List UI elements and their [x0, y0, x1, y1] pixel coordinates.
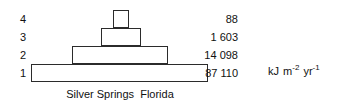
- pyramid-bar-level-3: [101, 28, 141, 46]
- units-area-exponent: -2: [292, 63, 299, 72]
- value-label-level-4: 88: [226, 14, 238, 25]
- units-time: yr-1: [303, 65, 319, 77]
- pyramid-bar-level-4: [113, 10, 129, 28]
- units-area: m-2: [283, 65, 299, 77]
- level-label-1: 1: [12, 68, 26, 79]
- level-label-4: 4: [12, 14, 26, 25]
- pyramid-bar-level-1: [31, 64, 208, 82]
- value-label-level-2: 14 098: [204, 50, 238, 61]
- units-label: kJ m-2 yr-1: [268, 66, 321, 77]
- units-energy: kJ: [268, 65, 279, 77]
- pyramid-bar-level-2: [72, 46, 168, 64]
- energy-pyramid-figure: 4 3 2 1 88 1 603 14 098 87 110 kJ m-2 yr…: [0, 0, 342, 105]
- level-label-3: 3: [12, 32, 26, 43]
- units-time-exponent: -1: [313, 63, 320, 72]
- units-area-base: m: [283, 65, 292, 77]
- value-label-level-1: 87 110: [205, 68, 238, 79]
- figure-caption: Silver Springs Florida: [0, 88, 240, 100]
- level-label-2: 2: [12, 50, 26, 61]
- units-time-base: yr: [303, 65, 312, 77]
- value-label-level-3: 1 603: [210, 32, 238, 43]
